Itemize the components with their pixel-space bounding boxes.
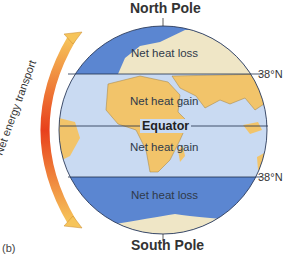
- zone-north-polar-label: Net heat loss: [131, 47, 198, 59]
- zone-south-polar-label: Net heat loss: [131, 189, 198, 201]
- equator-label: Equator: [140, 119, 191, 133]
- south-pole-label: South Pole: [131, 237, 204, 253]
- zone-north-tropical-label: Net heat gain: [130, 95, 198, 107]
- north-pole-label: North Pole: [130, 0, 201, 16]
- zone-south-tropical-label: Net heat gain: [130, 141, 198, 153]
- latitude-south-label: 38°N: [258, 171, 283, 183]
- latitude-north-label: 38°N: [258, 68, 283, 80]
- panel-label: (b): [2, 242, 15, 254]
